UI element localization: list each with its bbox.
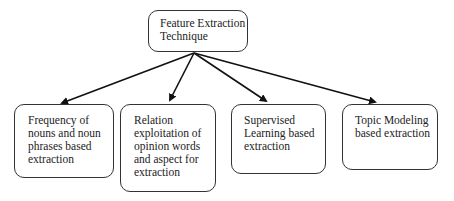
node-label: Topic Modeling based extraction [355, 114, 437, 140]
node-supervised: Supervised Learning based extraction [231, 104, 326, 174]
node-label: Supervised Learning based extraction [244, 114, 325, 153]
node-label: Relation exploitation of opinion words a… [134, 114, 215, 179]
node-relation: Relation exploitation of opinion words a… [120, 104, 216, 192]
root-node: Feature Extraction Technique [148, 10, 248, 52]
node-topic: Topic Modeling based extraction [342, 104, 438, 170]
node-label: Frequency of nouns and noun phrases base… [28, 114, 113, 166]
root-label: Feature Extraction Technique [160, 17, 247, 43]
arrow-to-frequency [62, 53, 194, 103]
arrow-to-topic [194, 53, 375, 102]
node-frequency: Frequency of nouns and noun phrases base… [14, 104, 114, 178]
arrow-to-supervised [194, 53, 266, 101]
